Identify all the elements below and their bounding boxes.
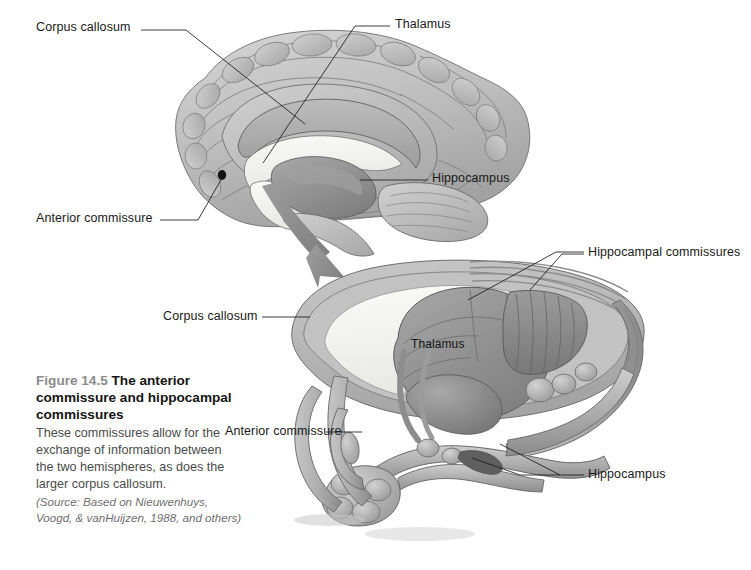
caption-figure-number: Figure 14.5 [36, 373, 108, 388]
label-corpus-callosum-lower: Corpus callosum [163, 309, 258, 323]
label-hippocampus-upper: Hippocampus [432, 171, 510, 185]
limbic-commissures-group [262, 252, 644, 541]
midsagittal-brain-group [141, 26, 530, 256]
label-thalamus-lower: Thalamus [411, 337, 465, 351]
label-hippocampal-commissures: Hippocampal commissures [588, 245, 740, 259]
caption-body: These commissures allow for the exchange… [36, 425, 242, 494]
figure-caption: Figure 14.5 The anterior commissure and … [36, 372, 242, 526]
caption-title-line: Figure 14.5 The anterior commissure and … [36, 372, 242, 424]
label-thalamus-upper: Thalamus [395, 17, 451, 31]
mammillary-body [417, 439, 439, 457]
caption-source: (Source: Based on Nieuwenhuys, Voogd, & … [36, 494, 242, 525]
figure-page: Corpus callosum Thalamus Hippocampus Ant… [0, 0, 751, 570]
label-anterior-commissure-upper: Anterior commissure [36, 211, 153, 225]
label-hippocampus-lower: Hippocampus [588, 467, 666, 481]
label-corpus-callosum-upper: Corpus callosum [36, 20, 131, 34]
label-anterior-commissure-lower: Anterior commissure [225, 424, 342, 438]
shadow-left [294, 514, 366, 526]
shadow-center [365, 527, 475, 541]
